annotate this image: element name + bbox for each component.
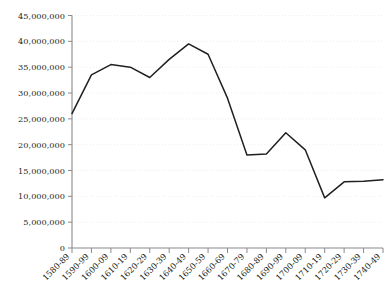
- y-axis-tick-label: 35,000,000: [18, 62, 65, 72]
- line-chart: 05,000,00010,000,00015,000,00020,000,000…: [0, 0, 392, 296]
- y-axis-tick-label: 10,000,000: [18, 191, 65, 201]
- x-axis-tick-labels: 1580-891590-991600-091610-191620-291630-…: [40, 251, 382, 282]
- y-axis-tick-label: 30,000,000: [18, 88, 65, 98]
- y-axis-tick-label: 15,000,000: [18, 166, 65, 176]
- chart-canvas: 05,000,00010,000,00015,000,00020,000,000…: [0, 0, 392, 296]
- y-axis-tick-label: 20,000,000: [18, 140, 65, 150]
- y-axis-tick-labels: 05,000,00010,000,00015,000,00020,000,000…: [18, 11, 65, 254]
- y-axis-tick-label: 45,000,000: [18, 11, 65, 21]
- gridlines: [72, 16, 383, 223]
- y-axis-tick-label: 25,000,000: [18, 114, 65, 124]
- y-axis-tick-label: 5,000,000: [23, 217, 65, 227]
- y-axis-ticks: [68, 16, 72, 249]
- y-axis-tick-label: 40,000,000: [18, 36, 65, 46]
